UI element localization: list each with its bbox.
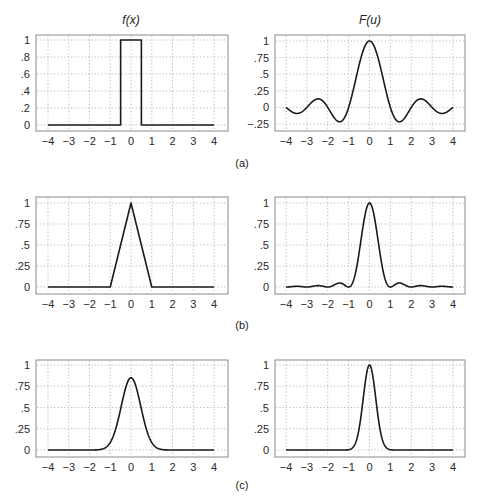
x-tick-label: 4 xyxy=(450,461,456,473)
x-tick-label: −3 xyxy=(301,461,314,473)
x-tick-label: −4 xyxy=(42,298,55,310)
y-tick-label: .6 xyxy=(21,68,30,80)
x-tick-label: 4 xyxy=(211,461,217,473)
y-tick-label: .5 xyxy=(21,239,30,251)
y-tick-label: .8 xyxy=(21,51,30,63)
x-tick-label: 1 xyxy=(149,135,155,147)
y-tick-label: .5 xyxy=(21,402,30,414)
x-tick-label: 2 xyxy=(408,298,414,310)
plot-b-right: −4−3−2−1012340.25.5.751 xyxy=(254,197,465,310)
x-tick-label: −1 xyxy=(104,135,117,147)
x-tick-label: 4 xyxy=(211,298,217,310)
y-tick-label: 1 xyxy=(24,34,30,46)
x-tick-label: −2 xyxy=(83,135,96,147)
x-tick-label: −1 xyxy=(104,298,117,310)
x-tick-label: −3 xyxy=(62,461,75,473)
fourier-transform-figure: f(x) F(u) −4−3−2−1012340.2.4.6.81 −4−3−2… xyxy=(0,0,484,502)
x-tick-label: −2 xyxy=(83,298,96,310)
y-tick-label: .25 xyxy=(254,85,269,97)
x-tick-label: 2 xyxy=(169,135,175,147)
y-tick-label: 1 xyxy=(263,197,269,209)
x-tick-label: 0 xyxy=(366,135,372,147)
x-tick-label: 1 xyxy=(387,135,393,147)
y-tick-label: .75 xyxy=(254,218,269,230)
x-tick-label: 2 xyxy=(408,461,414,473)
y-tick-label: 1 xyxy=(24,197,30,209)
x-tick-label: 1 xyxy=(149,298,155,310)
plot-frame xyxy=(36,197,228,294)
x-tick-label: 2 xyxy=(408,135,414,147)
x-tick-label: −3 xyxy=(62,135,75,147)
x-tick-label: 4 xyxy=(450,135,456,147)
x-tick-label: 0 xyxy=(128,135,134,147)
y-tick-label: 1 xyxy=(263,35,269,47)
y-tick-label: .25 xyxy=(15,423,30,435)
plot-frame xyxy=(36,35,228,131)
panel-label-a: (a) xyxy=(235,157,248,169)
plot-frame xyxy=(275,197,465,294)
x-tick-label: −2 xyxy=(321,461,334,473)
y-tick-label: .5 xyxy=(260,68,269,80)
x-tick-label: −4 xyxy=(280,298,293,310)
plot-b-left: −4−3−2−1012340.25.5.751 xyxy=(15,197,228,310)
x-tick-label: 3 xyxy=(429,461,435,473)
x-tick-label: −2 xyxy=(321,135,334,147)
plot-frame xyxy=(36,360,228,457)
x-tick-label: 4 xyxy=(211,135,217,147)
y-tick-label: .2 xyxy=(21,102,30,114)
title-Fu: F(u) xyxy=(359,13,381,27)
panel-label-b: (b) xyxy=(235,319,248,331)
x-tick-label: 1 xyxy=(387,298,393,310)
x-tick-label: −4 xyxy=(280,135,293,147)
x-tick-label: −1 xyxy=(104,461,117,473)
x-tick-label: 3 xyxy=(429,298,435,310)
y-tick-label: .75 xyxy=(15,380,30,392)
x-tick-label: 0 xyxy=(366,461,372,473)
x-tick-label: −4 xyxy=(280,461,293,473)
y-tick-label: 0 xyxy=(263,101,269,113)
x-tick-label: 3 xyxy=(190,135,196,147)
x-tick-label: −1 xyxy=(342,298,355,310)
x-tick-label: −3 xyxy=(301,298,314,310)
x-tick-label: 3 xyxy=(190,461,196,473)
x-tick-label: 3 xyxy=(190,298,196,310)
x-tick-label: −3 xyxy=(62,298,75,310)
y-tick-label: −.25 xyxy=(247,118,269,130)
y-tick-label: .5 xyxy=(260,402,269,414)
y-tick-label: .4 xyxy=(21,85,30,97)
x-tick-label: −3 xyxy=(301,135,314,147)
plot-frame xyxy=(275,35,465,131)
y-tick-label: .75 xyxy=(254,380,269,392)
panel-label-c: (c) xyxy=(236,479,249,491)
plot-c-right: −4−3−2−1012340.25.5.751 xyxy=(254,359,465,473)
y-tick-label: 0 xyxy=(263,444,269,456)
data-curve xyxy=(48,40,214,125)
y-tick-label: 0 xyxy=(263,281,269,293)
x-tick-label: 4 xyxy=(450,298,456,310)
y-tick-label: .75 xyxy=(15,218,30,230)
x-tick-label: 0 xyxy=(128,298,134,310)
x-tick-label: −4 xyxy=(42,461,55,473)
x-tick-label: 2 xyxy=(169,298,175,310)
y-tick-label: .25 xyxy=(254,260,269,272)
y-tick-label: .75 xyxy=(254,52,269,64)
x-tick-label: 1 xyxy=(387,461,393,473)
x-tick-label: −2 xyxy=(83,461,96,473)
x-tick-label: 1 xyxy=(149,461,155,473)
y-tick-label: 1 xyxy=(24,359,30,371)
x-tick-label: 3 xyxy=(429,135,435,147)
x-tick-label: −1 xyxy=(342,135,355,147)
x-tick-label: −1 xyxy=(342,461,355,473)
y-tick-label: 0 xyxy=(24,444,30,456)
x-tick-label: 0 xyxy=(366,298,372,310)
title-fx: f(x) xyxy=(122,13,139,27)
x-tick-label: −2 xyxy=(321,298,334,310)
plot-c-left: −4−3−2−1012340.25.5.751 xyxy=(15,359,228,473)
y-tick-label: 1 xyxy=(263,359,269,371)
plot-a-left: −4−3−2−1012340.2.4.6.81 xyxy=(21,34,228,147)
y-tick-label: .25 xyxy=(254,423,269,435)
y-tick-label: 0 xyxy=(24,119,30,131)
y-tick-label: 0 xyxy=(24,281,30,293)
plot-a-right: −4−3−2−101234−.250.25.5.751 xyxy=(247,35,465,147)
y-tick-label: .5 xyxy=(260,239,269,251)
